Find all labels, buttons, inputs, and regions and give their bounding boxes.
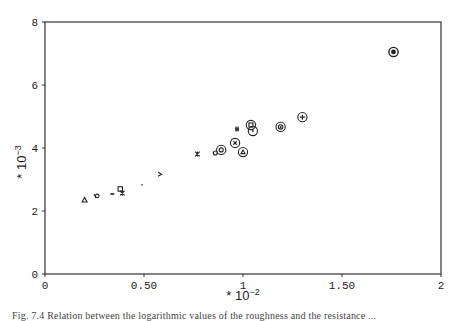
data-point-greater-than — [158, 172, 162, 176]
y-axis: 02468 — [31, 17, 45, 281]
x-tick-label: 1.50 — [329, 280, 355, 292]
data-point-circled-square — [246, 120, 255, 129]
data-point-hash — [235, 127, 239, 132]
y-tick-label: 8 — [31, 17, 38, 29]
y-axis-label: * 10−3 — [13, 145, 29, 178]
data-point-star — [120, 190, 125, 195]
figure-caption: Fig. 7.4 Relation between the logarithmi… — [12, 310, 376, 321]
data-point-dot — [141, 184, 143, 186]
svg-text:* 10−3: * 10−3 — [13, 145, 29, 178]
data-point-circled-plus — [298, 113, 307, 122]
y-tick-label: 6 — [31, 80, 38, 92]
x-tick-label: 0.50 — [131, 280, 157, 292]
y-label-exp: −3 — [13, 145, 23, 155]
data-point-circled-at — [276, 122, 285, 131]
x-tick-label: 2 — [438, 280, 445, 292]
x-label-base: * 10 — [226, 288, 249, 303]
data-points — [82, 47, 398, 202]
data-point-circled-dot — [217, 145, 226, 154]
y-tick-label: 0 — [31, 269, 38, 281]
y-tick-label: 2 — [31, 206, 38, 218]
data-point-circled-triangle — [238, 147, 247, 156]
data-point-circled-x — [230, 138, 239, 147]
y-label-base: * 10 — [14, 156, 29, 179]
x-axis-label: * 10−2 — [226, 287, 259, 303]
data-point-dash — [110, 193, 114, 195]
data-point-circled-dot-open — [248, 126, 257, 135]
x-label-exp: −2 — [249, 287, 259, 297]
data-point-circled-dot-filled — [389, 47, 398, 56]
svg-text:* 10−2: * 10−2 — [226, 287, 259, 303]
data-point-phi — [94, 194, 99, 198]
x-tick-label: 0 — [42, 280, 49, 292]
y-tick-label: 4 — [31, 143, 38, 155]
data-point-triangle — [82, 197, 87, 202]
data-point-star — [195, 151, 200, 156]
